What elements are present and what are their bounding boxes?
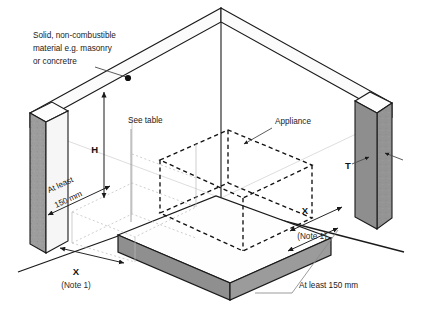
right-wall-side-face [355,101,377,229]
isometric-diagram: H Solid, non-combustible material e.g. m… [0,0,422,318]
dimension-150-front-label: At least 150 mm [299,281,358,290]
dimension-X-left-label: X [73,266,80,277]
callout-material-dot [125,75,131,81]
callout-see-table-label: See table [128,116,163,125]
callout-material-line3: or concretre [33,57,77,66]
callout-appliance: Appliance [244,117,311,144]
projection-dash-top [132,154,196,178]
callout-appliance-label: Appliance [275,117,311,126]
dimension-T-label: T [345,160,351,171]
left-wall-end-slab [30,102,68,253]
callout-material-line2: material e.g. masonry [33,44,113,53]
callout-appliance-leader [244,128,272,144]
callout-material: Solid, non-combustible material e.g. mas… [33,31,131,81]
appliance-top-face [160,130,312,198]
dimension-H: H [91,92,104,198]
dimension-H-label: H [91,144,98,155]
figure-canvas: H Solid, non-combustible material e.g. m… [0,0,422,318]
right-wall-front-face [377,103,392,229]
dimension-X-right-line [290,207,342,231]
callout-material-line1: Solid, non-combustible [33,31,116,40]
dimension-X-left-note: (Note 1) [61,281,91,290]
dimension-X-right-label: X [302,205,309,216]
callout-see-table: See table [128,116,163,222]
dimension-X-left: X (Note 1) [60,248,124,290]
left-wall-front-face [30,113,46,253]
